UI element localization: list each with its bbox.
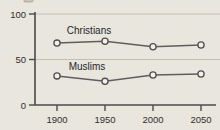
x-tick-label-2050: 2050: [190, 114, 211, 125]
series-muslims: [54, 71, 204, 84]
datapoint-muslims-1950[interactable]: [102, 78, 108, 84]
series-christians: [54, 38, 204, 50]
series-label-christians: Christians: [67, 25, 111, 36]
datapoint-christians-1900[interactable]: [54, 40, 60, 46]
series-line-muslims: [57, 74, 201, 81]
y-tick-label-100: 100: [10, 9, 26, 20]
y-axis-ticks: 100 50 0: [10, 9, 35, 111]
datapoint-muslims-1900[interactable]: [54, 73, 60, 79]
cropped-glyph-top: [24, 0, 33, 2]
series-line-christians: [57, 41, 201, 46]
x-tick-label-1900: 1900: [46, 114, 67, 125]
y-tick-label-0: 0: [21, 100, 26, 111]
x-tick-label-1950: 1950: [94, 114, 115, 125]
chart-container: 100 50 0 1900 1950 2000 2050 Christians …: [0, 0, 220, 130]
datapoint-christians-1950[interactable]: [102, 38, 108, 44]
series-label-muslims: Muslims: [69, 61, 106, 72]
x-tick-label-2000: 2000: [142, 114, 163, 125]
datapoint-muslims-2000[interactable]: [150, 72, 156, 78]
datapoint-christians-2000[interactable]: [150, 44, 156, 50]
gridlines: [35, 14, 220, 60]
y-tick-label-50: 50: [15, 54, 26, 65]
line-chart: 100 50 0 1900 1950 2000 2050 Christians …: [0, 0, 220, 130]
x-axis-ticks: 1900 1950 2000 2050: [46, 105, 211, 125]
axes: [35, 12, 216, 105]
datapoint-christians-2050[interactable]: [198, 42, 204, 48]
datapoint-muslims-2050[interactable]: [198, 71, 204, 77]
